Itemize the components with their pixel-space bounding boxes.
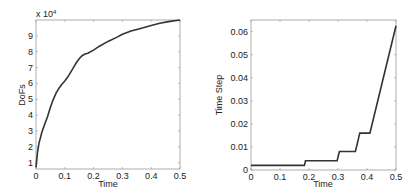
y-multiplier-label: x 104 bbox=[36, 9, 57, 19]
y-tick-label: 5 bbox=[28, 94, 33, 104]
dofs-chart: 00.10.20.30.40.5 123456789 Time DoFs x 1… bbox=[17, 9, 186, 189]
x-tick-label: 0.4 bbox=[145, 171, 158, 181]
x-tick-label: 0.5 bbox=[174, 171, 187, 181]
x-tick-label: 0.3 bbox=[116, 171, 129, 181]
x-axis-ticks: 00.10.20.30.40.5 bbox=[248, 20, 402, 182]
y-tick-label: 0 bbox=[243, 165, 248, 175]
y-tick-label: 0.02 bbox=[230, 119, 248, 129]
plot-area bbox=[36, 20, 180, 169]
x-axis-label: Time bbox=[313, 179, 333, 189]
timestep-line bbox=[251, 26, 396, 166]
x-tick-label: 0 bbox=[33, 171, 38, 181]
x-axis-ticks: 00.10.20.30.40.5 bbox=[33, 20, 186, 181]
y-tick-label: 0.03 bbox=[230, 96, 248, 106]
y-axis-ticks: 00.010.020.030.040.050.06 bbox=[230, 27, 396, 175]
y-axis-label: DoFs bbox=[17, 84, 27, 106]
x-tick-label: 0.4 bbox=[361, 172, 374, 182]
y-tick-label: 7 bbox=[28, 63, 33, 73]
figure: 00.10.20.30.40.5 123456789 Time DoFs x 1… bbox=[0, 0, 418, 194]
y-tick-label: 3 bbox=[28, 126, 33, 136]
x-tick-label: 0.1 bbox=[274, 172, 287, 182]
y-axis-label: Time Step bbox=[214, 75, 224, 116]
x-tick-label: 0.5 bbox=[390, 172, 403, 182]
y-tick-label: 9 bbox=[28, 31, 33, 41]
timestep-chart: 00.10.20.30.40.5 00.010.020.030.040.050.… bbox=[214, 20, 402, 189]
x-tick-label: 0.3 bbox=[332, 172, 345, 182]
y-axis-ticks: 123456789 bbox=[28, 31, 180, 168]
y-tick-label: 8 bbox=[28, 47, 33, 57]
x-axis-label: Time bbox=[98, 179, 118, 189]
x-tick-label: 0 bbox=[248, 172, 253, 182]
plot-area bbox=[251, 20, 396, 170]
x-tick-label: 0.1 bbox=[59, 171, 72, 181]
y-tick-label: 6 bbox=[28, 78, 33, 88]
y-tick-label: 4 bbox=[28, 110, 33, 120]
y-tick-label: 2 bbox=[28, 142, 33, 152]
dofs-line bbox=[36, 20, 180, 167]
y-tick-label: 0.04 bbox=[230, 73, 248, 83]
y-tick-label: 0.05 bbox=[230, 50, 248, 60]
y-tick-label: 1 bbox=[28, 158, 33, 168]
y-tick-label: 0.06 bbox=[230, 27, 248, 37]
y-tick-label: 0.01 bbox=[230, 142, 248, 152]
